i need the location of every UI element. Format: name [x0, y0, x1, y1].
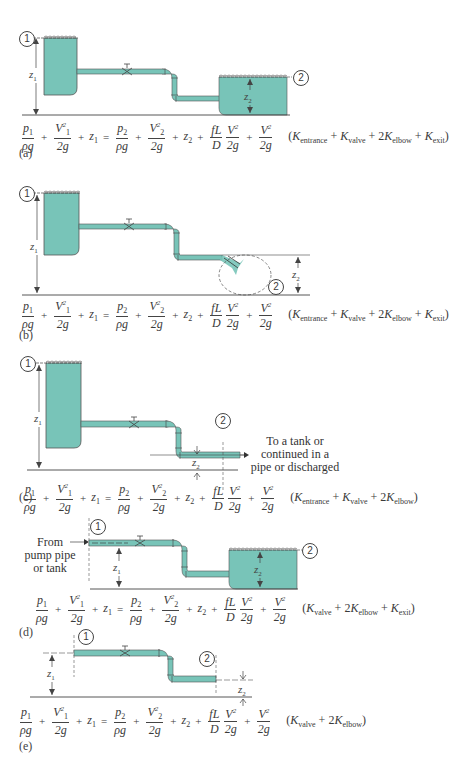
z2-label: z2	[244, 90, 252, 105]
source-note: Frompump pipeor tank	[20, 536, 80, 575]
z2-label: z2	[238, 683, 246, 698]
point-1-marker: 1	[20, 356, 36, 372]
panel-b-drawing	[0, 160, 427, 320]
point-1-marker: 1	[90, 519, 106, 535]
point-1-marker: 1	[19, 31, 35, 47]
z1-label: z1	[47, 667, 55, 682]
energy-equation-e: p1ρg + V212g + z1 = p2ρg + V222g + z2 + …	[18, 706, 366, 736]
loss-coefficients-b: (Kentrance + Kvalve + 2Kelbow + Kexit)	[288, 307, 448, 323]
panel-label-a: (a)	[19, 146, 32, 161]
loss-coefficients-e: (Kvalve + 2Kelbow)	[286, 713, 366, 729]
point-2-marker: 2	[268, 279, 284, 295]
point-1-marker: 1	[19, 186, 35, 202]
point-2-marker: 2	[199, 651, 215, 667]
z1-label: z1	[30, 240, 38, 255]
point-2-marker: 2	[215, 413, 231, 429]
loss-coefficients-d: (Kvalve + 2Kelbow + Kexit)	[302, 601, 415, 617]
energy-equation-a: p1ρg + V212g + z1 = p2ρg + V222g + z2 + …	[20, 122, 449, 152]
point-2-marker: 2	[302, 543, 318, 559]
z1-label: z1	[113, 561, 121, 576]
point-1-marker: 1	[78, 629, 94, 645]
panel-c: 1 2 z1 z2 To a tank orcontinued in apipe…	[0, 340, 427, 500]
z1-label: z1	[34, 412, 42, 427]
panel-b: 1 2 z1 z2 p1ρg + V212g + z1 = p2ρg + V22…	[0, 160, 427, 320]
z1-label: z1	[29, 68, 37, 83]
energy-equation-d: p1ρg + V212g + z1 = p2ρg + V222g + z2 + …	[34, 594, 415, 624]
z2-label: z2	[292, 268, 300, 283]
z2-label: z2	[192, 456, 200, 471]
panel-d: 1 2 Frompump pipeor tank z1 z2 p1ρg + V2…	[0, 500, 427, 640]
point-2-marker: 2	[293, 70, 309, 86]
destination-note: To a tank orcontinued in apipe or discha…	[250, 435, 340, 474]
z2-label: z2	[254, 563, 262, 578]
panel-e: 1 2 z1 z2 p1ρg + V212g + z1 = p2ρg + V22…	[0, 635, 427, 777]
loss-coefficients-a: (Kentrance + Kvalve + 2Kelbow + Kexit)	[288, 129, 448, 145]
panel-label-e: (e)	[19, 739, 32, 754]
panel-a: 1 2 z1 z2 p1ρg + V212g + z1 = p2ρg + V22…	[0, 0, 427, 160]
energy-equation-b: p1ρg + V212g + z1 = p2ρg + V222g + z2 + …	[20, 300, 449, 330]
panel-c-drawing	[0, 340, 427, 500]
